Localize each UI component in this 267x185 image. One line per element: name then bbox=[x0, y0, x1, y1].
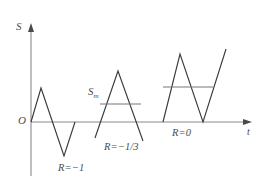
x-axis-label: t bbox=[247, 127, 250, 137]
plot-svg bbox=[0, 0, 267, 185]
waveform-r-minus-one-third bbox=[95, 71, 143, 141]
stress-ratio-label-block3: R=0 bbox=[172, 128, 191, 139]
y-axis-arrow-icon bbox=[28, 23, 34, 32]
origin-label: O bbox=[18, 115, 26, 126]
stress-ratio-label-block2: R=−1/3 bbox=[104, 142, 139, 153]
stress-waveform-figure: S t O Sm R=−1 R=−1/3 R=0 bbox=[0, 0, 267, 185]
waveform-r-zero bbox=[163, 49, 226, 122]
y-axis-label: S bbox=[16, 21, 22, 32]
mean-stress-label: Sm bbox=[88, 86, 99, 100]
x-axis-arrow-icon bbox=[243, 119, 252, 125]
mean-stress-subscript: m bbox=[94, 92, 99, 100]
stress-ratio-label-block1: R=−1 bbox=[58, 163, 84, 174]
